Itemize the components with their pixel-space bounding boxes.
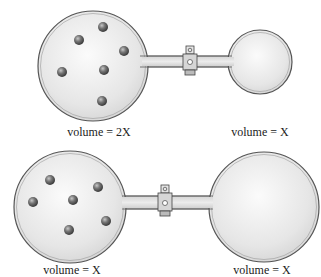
right-flask-x bbox=[228, 30, 292, 94]
top-right-volume-label: volume = X bbox=[231, 125, 289, 139]
stopcock-valve bbox=[158, 185, 172, 216]
right-flask-x bbox=[209, 152, 319, 262]
left-flask-x bbox=[14, 151, 126, 263]
top-left-volume-label: volume = 2X bbox=[67, 125, 131, 139]
top-flask-system: volume = 2X volume = X bbox=[38, 11, 292, 139]
diagram-canvas: volume = 2X volume = X volume = X volume bbox=[0, 0, 321, 277]
left-flask-2x bbox=[38, 11, 148, 121]
stopcock-valve bbox=[183, 46, 197, 75]
bottom-left-volume-label: volume = X bbox=[43, 263, 101, 277]
bottom-right-volume-label: volume = X bbox=[233, 263, 291, 277]
bottom-flask-system: volume = X volume = X bbox=[14, 151, 319, 277]
